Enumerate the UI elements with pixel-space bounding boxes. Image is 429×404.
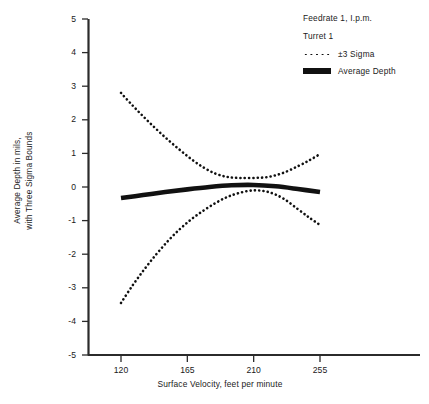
x-axis-title: Surface Velocity, feet per minute — [70, 379, 370, 389]
y-tick-label: 5 — [50, 15, 76, 24]
y-tick-label: -5 — [50, 351, 76, 360]
y-tick-label: 1 — [50, 149, 76, 158]
series-average-depth — [121, 185, 320, 198]
y-axis-title: Average Depth in mils, with Three Sigma … — [0, 0, 46, 360]
series-3-sigma — [121, 190, 320, 303]
y-tick-label: 0 — [50, 183, 76, 192]
y-axis-ticks — [82, 19, 88, 355]
series-3-sigma — [121, 93, 320, 178]
y-tick-label: -1 — [50, 216, 76, 225]
chart-legend: Feedrate 1, I.p.m. Turret 1 ±3 Sigma Ave… — [303, 13, 427, 83]
data-series-layer — [121, 93, 320, 303]
y-axis-title-line2: with Three Sigma Bounds — [23, 131, 35, 229]
x-tick-label: 210 — [236, 366, 272, 375]
y-tick-label: 4 — [50, 48, 76, 57]
y-tick-label: 2 — [50, 115, 76, 124]
y-tick-label: -4 — [50, 317, 76, 326]
y-tick-label: 3 — [50, 82, 76, 91]
solid-line-swatch-icon — [303, 67, 331, 76]
dotted-line-swatch-icon — [303, 50, 331, 59]
x-tick-label: 120 — [103, 366, 139, 375]
legend-note-turret: Turret 1 — [303, 31, 427, 41]
chart-figure: Average Depth in mils, with Three Sigma … — [0, 0, 429, 404]
y-tick-label: -3 — [50, 283, 76, 292]
legend-entry-average-depth: Average Depth — [303, 66, 427, 76]
legend-note-feedrate: Feedrate 1, I.p.m. — [303, 13, 427, 23]
legend-label-average-depth: Average Depth — [338, 66, 396, 76]
y-tick-label: -2 — [50, 250, 76, 259]
x-tick-label: 255 — [302, 366, 338, 375]
legend-entry-sigma: ±3 Sigma — [303, 49, 427, 59]
y-axis-title-line1: Average Depth in mils, — [12, 131, 24, 229]
legend-label-sigma: ±3 Sigma — [338, 49, 375, 59]
x-tick-label: 165 — [169, 366, 205, 375]
